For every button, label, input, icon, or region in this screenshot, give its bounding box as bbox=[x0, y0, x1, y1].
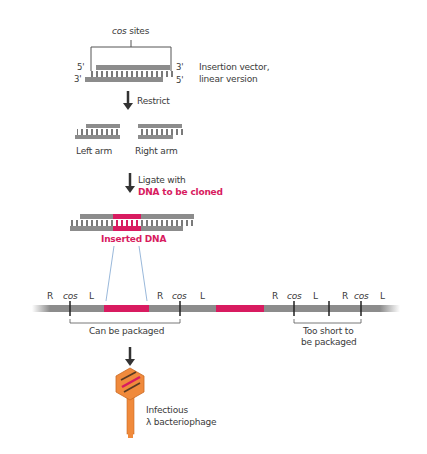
marker-l-4: L bbox=[380, 291, 385, 302]
end-5-bottom: 5' bbox=[176, 75, 183, 86]
ligated-construct bbox=[70, 214, 194, 231]
marker-r-3: R bbox=[272, 291, 278, 302]
marker-r-1: R bbox=[47, 291, 53, 302]
left-arm bbox=[75, 124, 120, 139]
marker-r-2: R bbox=[157, 291, 163, 302]
bottom-strand bbox=[85, 77, 163, 82]
vector-label-line2: linear version bbox=[199, 74, 257, 85]
ligate-arrow bbox=[125, 173, 135, 193]
sites-label: sites bbox=[129, 26, 149, 36]
vector-label-line1: Insertion vector, bbox=[199, 62, 269, 73]
concatemer bbox=[32, 301, 400, 316]
can-be-packaged-label: Can be packaged bbox=[89, 326, 164, 337]
marker-cos-4: cos bbox=[354, 291, 369, 302]
too-short-label-line2: be packaged bbox=[301, 337, 357, 348]
marker-cos-1: cos bbox=[63, 291, 78, 302]
insertion-vector bbox=[85, 40, 175, 82]
guide-line-right bbox=[139, 246, 147, 301]
right-arm-label: Right arm bbox=[135, 146, 178, 157]
dna-to-be-cloned-label: DNA to be cloned bbox=[138, 187, 223, 198]
ligate-label: Ligate with bbox=[138, 175, 186, 186]
insert-segment-1 bbox=[104, 305, 149, 312]
phage-label-line1: Infectious bbox=[146, 405, 188, 416]
can-be-packaged-bracket bbox=[70, 319, 180, 323]
end-3-top: 3' bbox=[176, 62, 183, 73]
marker-cos-2: cos bbox=[172, 291, 187, 302]
insert-segment-2 bbox=[216, 305, 264, 312]
marker-l-3: L bbox=[313, 291, 318, 302]
marker-l-1: L bbox=[89, 291, 94, 302]
end-5-top: 5' bbox=[77, 62, 84, 73]
top-strand bbox=[96, 65, 170, 70]
phage-label-line2: λ bacteriophage bbox=[146, 417, 216, 428]
end-3-bottom: 3' bbox=[74, 74, 81, 85]
marker-cos-3: cos bbox=[287, 291, 302, 302]
base-pair-ticks bbox=[89, 71, 175, 77]
cos-sites-label: cos sites bbox=[112, 26, 149, 37]
bacteriophage-icon bbox=[116, 368, 144, 438]
too-short-label-line1: Too short to bbox=[303, 326, 353, 337]
too-short-bracket bbox=[294, 319, 361, 323]
inserted-dna-label: Inserted DNA bbox=[101, 234, 166, 245]
cos-label: cos bbox=[112, 26, 127, 36]
right-arm bbox=[138, 124, 184, 139]
marker-l-2: L bbox=[200, 291, 205, 302]
package-arrow bbox=[125, 347, 135, 366]
restrict-label: Restrict bbox=[137, 96, 170, 107]
left-arm-label: Left arm bbox=[76, 146, 112, 157]
marker-r-4: R bbox=[342, 291, 348, 302]
restrict-arrow bbox=[123, 91, 133, 110]
guide-line-left bbox=[106, 246, 114, 301]
